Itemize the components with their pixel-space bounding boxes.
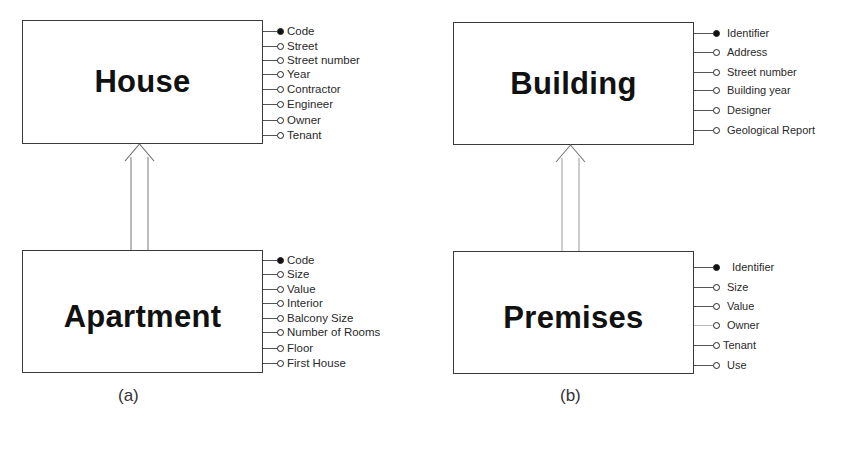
attribute-tenant: Tenant: [694, 338, 756, 352]
attribute-value: Value: [694, 299, 754, 313]
circle-icon: [713, 322, 720, 329]
attribute-use: Use: [694, 358, 747, 372]
attribute-geological-report: Geological Report: [694, 123, 815, 137]
entity-name: Premises: [503, 300, 643, 336]
entity-name: Building: [510, 66, 636, 102]
attribute-street-number: Street number: [694, 65, 797, 79]
circle-icon: [713, 127, 720, 134]
entity-building: Building: [453, 22, 694, 145]
circle-icon: [713, 362, 720, 369]
attribute-address: Address: [694, 45, 767, 59]
attribute-designer: Designer: [694, 103, 771, 117]
attribute-identifier: Identifier: [694, 260, 774, 274]
circle-icon: [713, 284, 720, 291]
caption-b: (b): [560, 386, 581, 406]
attribute-owner: Owner: [694, 318, 759, 332]
attribute-building-year: Building year: [694, 83, 791, 97]
entity-premises: Premises: [453, 251, 694, 374]
circle-icon: [713, 69, 720, 76]
circle-icon: [713, 87, 720, 94]
circle-icon: [713, 342, 720, 349]
key-dot-icon: [713, 30, 720, 37]
circle-icon: [713, 303, 720, 310]
attribute-identifier: Identifier: [694, 26, 769, 40]
circle-icon: [713, 49, 720, 56]
attribute-size: Size: [694, 280, 748, 294]
circle-icon: [713, 107, 720, 114]
generalization-arrow-icon: [549, 144, 593, 252]
key-dot-icon: [713, 264, 720, 271]
diagram-b: Building Identifier Address Street numbe…: [0, 0, 422, 451]
